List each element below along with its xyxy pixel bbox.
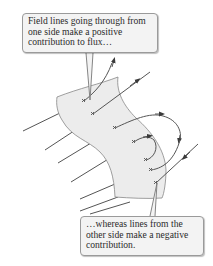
callout-negative-flux-text: …whereas lines from the other side make …	[86, 218, 188, 250]
field-line-back-1	[23, 112, 62, 131]
callout-positive-flux: Field lines going through from one side …	[22, 13, 158, 53]
callout-positive-flux-text: Field lines going through from one side …	[28, 15, 146, 47]
arrow-head-2	[130, 80, 138, 86]
arrow-head-6	[184, 152, 190, 158]
field-line-back-7	[90, 202, 130, 214]
callout-negative-flux: …whereas lines from the other side make …	[80, 216, 204, 256]
field-line-back-6	[80, 197, 118, 211]
field-line-back-5	[80, 184, 115, 199]
field-line-back-4	[71, 158, 110, 182]
field-line-loop-outer	[163, 116, 180, 140]
